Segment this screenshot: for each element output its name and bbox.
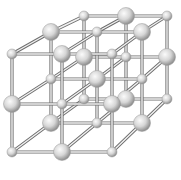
large-atom-icon: [104, 96, 121, 113]
large-atom-icon: [54, 46, 71, 63]
large-atom-icon: [43, 115, 60, 132]
small-atom-icon: [92, 27, 102, 37]
small-atom-icon: [107, 49, 117, 59]
large-atom-icon: [118, 8, 135, 25]
large-atom-icon: [4, 96, 21, 113]
large-atom-icon: [159, 49, 176, 66]
small-atom-icon: [162, 94, 172, 104]
small-atom-icon: [107, 147, 117, 157]
large-atom-icon: [89, 71, 106, 88]
large-atom-icon: [134, 24, 151, 41]
small-atom-icon: [46, 74, 56, 84]
small-atom-icon: [137, 74, 147, 84]
large-atom-icon: [54, 144, 71, 161]
lattice-svg: [0, 0, 181, 180]
small-atom-icon: [79, 94, 89, 104]
large-atom-icon: [43, 24, 60, 41]
small-atom-icon: [79, 11, 89, 21]
small-atom-icon: [121, 52, 131, 62]
large-atom-icon: [134, 115, 151, 132]
small-atom-icon: [57, 99, 67, 109]
large-atom-icon: [76, 49, 93, 66]
small-atom-icon: [7, 49, 17, 59]
small-atom-icon: [162, 11, 172, 21]
small-atom-icon: [92, 118, 102, 128]
small-atom-icon: [7, 147, 17, 157]
crystal-lattice-diagram: [0, 0, 181, 180]
